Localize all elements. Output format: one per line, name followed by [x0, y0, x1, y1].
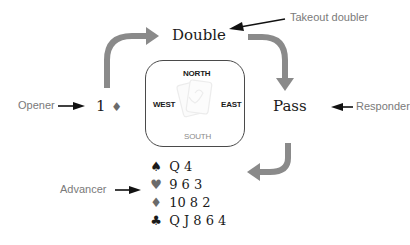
hand-row-diamonds: ♦ 10 8 2: [147, 194, 226, 212]
pointer-arrow-takeout-doubler: [229, 19, 285, 31]
club-suit-icon: ♣: [147, 212, 165, 230]
advancer-hand: ♠ Q 4 ♥ 9 6 3 ♦ 10 8 2 ♣ Q J 8 6 4: [147, 158, 226, 230]
role-label-advancer: Advancer: [60, 183, 106, 195]
diamonds-cards: 10 8 2: [169, 195, 210, 210]
bid-takeout-doubler: Double: [172, 26, 226, 44]
role-label-opener: Opener: [18, 99, 55, 111]
diamond-suit-icon: ♦: [111, 100, 122, 114]
heart-suit-icon: ♥: [147, 176, 165, 194]
hearts-cards: 9 6 3: [169, 177, 202, 192]
spades-cards: Q 4: [169, 159, 192, 174]
direction-south: SOUTH: [184, 132, 211, 141]
bridge-table: NORTH WEST EAST SOUTH: [145, 60, 245, 147]
hand-row-clubs: ♣ Q J 8 6 4: [147, 212, 226, 230]
spade-suit-icon: ♠: [147, 158, 165, 176]
direction-west: WEST: [153, 100, 175, 109]
role-label-responder: Responder: [356, 100, 410, 112]
flow-arrow-responder-to-advancer: [247, 143, 288, 181]
bid-responder: Pass: [273, 97, 307, 115]
direction-north: NORTH: [183, 69, 210, 78]
pointer-arrow-opener: [58, 102, 85, 110]
bid-opener: 1 ♦: [96, 97, 122, 115]
flow-arrow-doubler-to-responder: [248, 37, 294, 91]
hand-row-spades: ♠ Q 4: [147, 158, 226, 176]
role-label-takeout-doubler: Takeout doubler: [290, 11, 368, 23]
pointer-arrow-advancer: [115, 186, 141, 194]
pointer-arrow-responder: [331, 103, 353, 111]
bid-opener-level: 1: [96, 97, 106, 115]
direction-east: EAST: [221, 100, 242, 109]
diamond-suit-icon: ♦: [147, 194, 165, 212]
clubs-cards: Q J 8 6 4: [169, 213, 226, 228]
hand-row-hearts: ♥ 9 6 3: [147, 176, 226, 194]
